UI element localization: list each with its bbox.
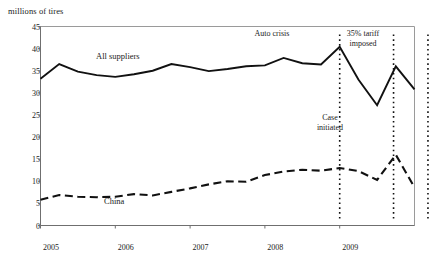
series-line-china [41,155,415,200]
data-series-paths [41,47,415,200]
series-line-all-suppliers [41,47,415,105]
plot-surface [0,0,430,266]
tire-imports-line-chart: millions of tires 051015202530354045 200… [0,0,430,266]
